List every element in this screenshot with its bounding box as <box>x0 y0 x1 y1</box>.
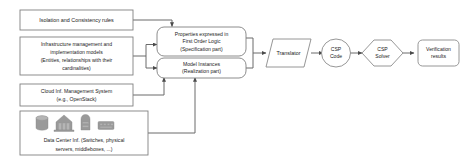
properties-fol-line-2: First Order Logic <box>183 38 221 44</box>
node-cloud-management-system[interactable]: Cloud Inf. Management System (e.g., Open… <box>20 84 133 106</box>
data-center-line-1: Data Center Inf. (Switches, physical <box>44 137 125 143</box>
network-switch-icon <box>98 122 114 130</box>
node-properties-first-order-logic[interactable]: Properties expressed in First Order Logi… <box>157 27 246 56</box>
csp-code-line-2: Code <box>330 53 342 59</box>
node-translator[interactable]: Translator <box>266 39 311 67</box>
infrastructure-models-line-3: (Entities, relationships with their <box>41 57 113 63</box>
edge-rules-to-properties <box>133 20 172 27</box>
csp-solver-line-1: CSP <box>377 46 388 52</box>
cloud-management-line-1: Cloud Inf. Management System <box>41 88 112 94</box>
translator-label: Translator <box>276 50 300 56</box>
isolation-rules-label: Isolation and Consistency rules <box>39 17 114 23</box>
properties-fol-line-3: (Specification part) <box>180 46 223 52</box>
verification-results-line-1: Verification <box>426 46 451 52</box>
node-verification-results[interactable]: Verification results <box>418 40 459 66</box>
diagram-svg: Isolation and Consistency rules Infrastr… <box>0 0 466 168</box>
node-isolation-consistency-rules[interactable]: Isolation and Consistency rules <box>20 10 133 30</box>
node-csp-solver[interactable]: CSP Solver <box>362 40 403 66</box>
infrastructure-models-line-1: Infrastructure management and <box>41 41 112 47</box>
infrastructure-models-line-2: implementation models <box>50 49 103 55</box>
edge-datacenter-to-instances <box>148 78 195 134</box>
node-model-instances[interactable]: Model Instances (Realization part) <box>157 58 246 78</box>
csp-solver-line-2: Solver <box>375 53 390 59</box>
cloud-management-line-2: (e.g., OpenStack) <box>57 96 97 102</box>
data-center-line-2: servers, middleboxes, ...) <box>56 146 113 152</box>
model-instances-line-1: Model Instances <box>183 61 221 67</box>
storage-cylinder-icon <box>36 116 48 130</box>
node-csp-code[interactable]: CSP Code <box>322 39 351 67</box>
verification-results-line-2: results <box>431 53 446 59</box>
csp-code-line-1: CSP <box>331 46 342 52</box>
diagram-canvas: Isolation and Consistency rules Infrastr… <box>0 0 466 168</box>
server-unit-icon <box>81 115 90 131</box>
node-data-center-infrastructure[interactable]: Data Center Inf. (Switches, physical ser… <box>20 111 148 155</box>
node-infrastructure-models[interactable]: Infrastructure management and implementa… <box>20 37 133 75</box>
model-instances-line-2: (Realization part) <box>182 68 221 74</box>
edge-cloud-to-instances <box>133 78 164 96</box>
infrastructure-models-line-4: cardinalities) <box>62 65 91 71</box>
properties-fol-line-1: Properties expressed in <box>175 31 229 37</box>
